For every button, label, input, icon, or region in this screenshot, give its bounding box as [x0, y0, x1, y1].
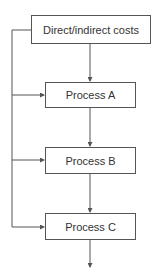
node-label: Process B [65, 155, 115, 167]
node-label: Direct/indirect costs [43, 24, 139, 36]
node-process-a: Process A [45, 82, 136, 108]
node-direct-indirect-costs: Direct/indirect costs [31, 15, 151, 44]
node-process-c: Process C [45, 213, 136, 240]
node-label: Process A [66, 89, 116, 101]
node-label: Process C [65, 221, 116, 233]
node-process-b: Process B [45, 147, 136, 174]
